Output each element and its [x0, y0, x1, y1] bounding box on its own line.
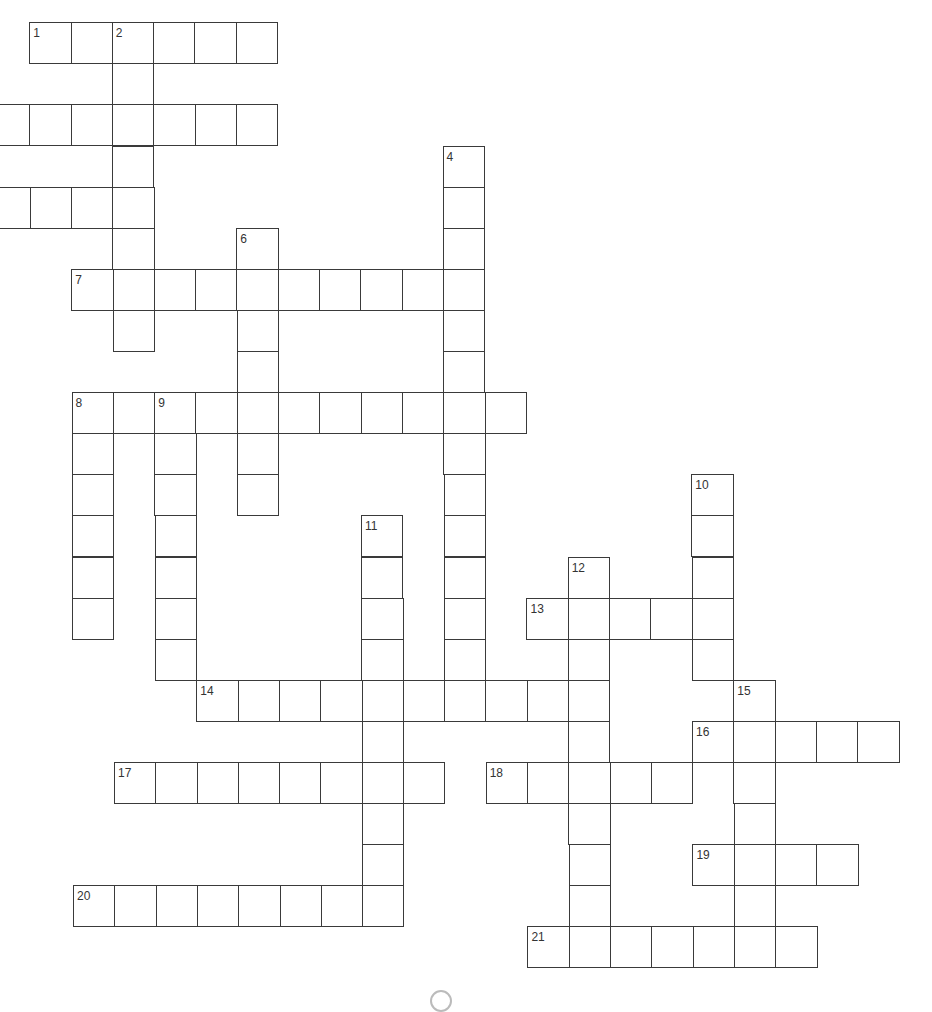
crossword-cell[interactable] [237, 310, 279, 352]
crossword-cell[interactable]: 15 [733, 680, 775, 722]
crossword-cell[interactable]: 2 [112, 22, 154, 64]
crossword-cell[interactable] [443, 433, 485, 475]
crossword-cell[interactable] [155, 762, 197, 804]
crossword-cell[interactable] [238, 885, 280, 927]
crossword-cell[interactable] [112, 63, 154, 105]
crossword-cell[interactable] [569, 885, 611, 927]
crossword-cell[interactable] [362, 680, 404, 722]
crossword-cell[interactable] [609, 598, 651, 640]
crossword-cell[interactable] [236, 22, 278, 64]
crossword-cell[interactable] [568, 680, 610, 722]
crossword-cell[interactable] [238, 762, 280, 804]
crossword-cell[interactable] [569, 926, 611, 968]
crossword-cell[interactable] [319, 392, 361, 434]
crossword-cell[interactable] [816, 844, 858, 886]
crossword-cell[interactable]: 6 [236, 228, 278, 270]
crossword-cell[interactable] [71, 104, 113, 146]
crossword-cell[interactable] [279, 680, 321, 722]
crossword-cell[interactable] [195, 104, 237, 146]
crossword-cell[interactable] [692, 639, 734, 681]
crossword-cell[interactable] [194, 22, 236, 64]
crossword-cell[interactable] [153, 22, 195, 64]
crossword-cell[interactable] [278, 392, 320, 434]
crossword-cell[interactable] [0, 187, 31, 229]
crossword-cell[interactable] [402, 392, 444, 434]
crossword-cell[interactable] [195, 269, 237, 311]
crossword-cell[interactable]: 21 [527, 926, 569, 968]
crossword-cell[interactable] [443, 187, 485, 229]
crossword-cell[interactable] [692, 598, 734, 640]
crossword-cell[interactable] [320, 762, 362, 804]
crossword-cell[interactable] [361, 557, 403, 599]
crossword-cell[interactable] [691, 515, 733, 557]
crossword-cell[interactable] [444, 598, 486, 640]
crossword-cell[interactable] [403, 762, 445, 804]
crossword-cell[interactable] [154, 269, 196, 311]
crossword-cell[interactable]: 13 [526, 598, 568, 640]
crossword-cell[interactable] [278, 269, 320, 311]
crossword-cell[interactable] [154, 433, 196, 475]
crossword-cell[interactable] [154, 474, 196, 516]
crossword-cell[interactable] [734, 885, 776, 927]
crossword-cell[interactable] [236, 269, 278, 311]
crossword-cell[interactable] [734, 803, 776, 845]
crossword-cell[interactable] [402, 269, 444, 311]
crossword-cell[interactable] [444, 680, 486, 722]
crossword-cell[interactable] [485, 680, 527, 722]
crossword-cell[interactable] [568, 639, 610, 681]
crossword-cell[interactable]: 1 [29, 22, 71, 64]
crossword-cell[interactable]: 11 [361, 515, 403, 557]
crossword-cell[interactable] [238, 680, 280, 722]
crossword-cell[interactable]: 17 [114, 762, 156, 804]
crossword-cell[interactable] [444, 474, 486, 516]
crossword-cell[interactable] [733, 762, 775, 804]
crossword-cell[interactable] [197, 762, 239, 804]
crossword-cell[interactable] [195, 392, 237, 434]
crossword-cell[interactable]: 14 [196, 680, 238, 722]
crossword-cell[interactable] [112, 104, 154, 146]
crossword-cell[interactable] [816, 721, 858, 763]
crossword-cell[interactable]: 7 [71, 269, 113, 311]
crossword-cell[interactable]: 16 [692, 721, 734, 763]
crossword-cell[interactable] [237, 351, 279, 393]
crossword-cell[interactable] [443, 228, 485, 270]
crossword-cell[interactable] [403, 680, 445, 722]
crossword-cell[interactable] [237, 433, 279, 475]
crossword-cell[interactable] [320, 680, 362, 722]
crossword-cell[interactable] [568, 598, 610, 640]
crossword-cell[interactable] [569, 844, 611, 886]
crossword-cell[interactable] [568, 803, 610, 845]
crossword-cell[interactable]: 8 [72, 392, 114, 434]
crossword-cell[interactable] [321, 885, 363, 927]
crossword-cell[interactable] [775, 926, 817, 968]
crossword-cell[interactable] [527, 680, 569, 722]
crossword-cell[interactable] [156, 885, 198, 927]
crossword-cell[interactable] [155, 598, 197, 640]
crossword-cell[interactable] [280, 885, 322, 927]
crossword-cell[interactable] [30, 187, 72, 229]
crossword-cell[interactable] [72, 515, 114, 557]
crossword-cell[interactable] [362, 885, 404, 927]
crossword-cell[interactable] [733, 721, 775, 763]
crossword-cell[interactable] [113, 269, 155, 311]
crossword-cell[interactable] [29, 104, 71, 146]
crossword-cell[interactable] [443, 392, 485, 434]
crossword-cell[interactable] [485, 392, 527, 434]
crossword-cell[interactable]: 9 [154, 392, 196, 434]
crossword-cell[interactable] [362, 762, 404, 804]
crossword-cell[interactable] [72, 433, 114, 475]
crossword-cell[interactable] [568, 762, 610, 804]
crossword-cell[interactable] [650, 598, 692, 640]
crossword-cell[interactable] [112, 187, 154, 229]
crossword-cell[interactable] [610, 762, 652, 804]
crossword-cell[interactable] [71, 187, 113, 229]
crossword-cell[interactable] [651, 926, 693, 968]
crossword-cell[interactable] [72, 557, 114, 599]
crossword-cell[interactable] [734, 844, 776, 886]
crossword-cell[interactable] [775, 721, 817, 763]
crossword-cell[interactable] [237, 392, 279, 434]
crossword-cell[interactable] [651, 762, 693, 804]
crossword-cell[interactable] [112, 146, 154, 188]
crossword-cell[interactable]: 20 [73, 885, 115, 927]
crossword-cell[interactable] [112, 228, 154, 270]
